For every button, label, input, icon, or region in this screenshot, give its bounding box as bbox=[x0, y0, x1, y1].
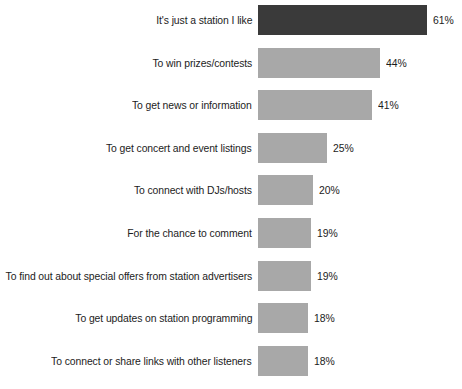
bar-value-label: 61% bbox=[433, 5, 454, 35]
bar-category-label: To get concert and event listings bbox=[106, 133, 252, 163]
bar-category-label: To get news or information bbox=[132, 90, 252, 120]
bar-value-label: 44% bbox=[386, 48, 407, 78]
bar-category-label: It's just a station I like bbox=[156, 5, 252, 35]
bar-value-label: 20% bbox=[319, 175, 340, 205]
bar-category-label: To get updates on station programming bbox=[75, 303, 252, 333]
bar-track: 44% bbox=[258, 48, 462, 78]
bar-value-label: 19% bbox=[317, 261, 338, 291]
bar-track: 19% bbox=[258, 218, 462, 248]
bar-category-label: For the chance to comment bbox=[128, 218, 252, 248]
bar-track: 18% bbox=[258, 303, 462, 333]
bar-category-label: To find out about special offers from st… bbox=[5, 261, 252, 291]
bar bbox=[258, 303, 308, 333]
bar-category-label: To connect or share links with other lis… bbox=[52, 346, 252, 376]
bar-row: To connect with DJs/hosts20% bbox=[0, 175, 462, 205]
bar-track: 25% bbox=[258, 133, 462, 163]
bar-value-label: 41% bbox=[378, 90, 399, 120]
bar-track: 61% bbox=[258, 5, 462, 35]
bar-category-label: To win prizes/contests bbox=[152, 48, 252, 78]
bar-value-label: 18% bbox=[314, 346, 335, 376]
horizontal-bar-chart: It's just a station I like61%To win priz… bbox=[0, 0, 462, 389]
bar-track: 19% bbox=[258, 261, 462, 291]
bar bbox=[258, 346, 308, 376]
bar bbox=[258, 48, 380, 78]
bar-row: To connect or share links with other lis… bbox=[0, 346, 462, 376]
bar bbox=[258, 175, 313, 205]
bar-value-label: 25% bbox=[333, 133, 354, 163]
bar-row: For the chance to comment19% bbox=[0, 218, 462, 248]
bar bbox=[258, 218, 311, 248]
bar-row: It's just a station I like61% bbox=[0, 5, 462, 35]
bar-row: To win prizes/contests44% bbox=[0, 48, 462, 78]
bar-category-label: To connect with DJs/hosts bbox=[134, 175, 252, 205]
bar-track: 18% bbox=[258, 346, 462, 376]
bar bbox=[258, 5, 427, 35]
bar-row: To find out about special offers from st… bbox=[0, 261, 462, 291]
bar bbox=[258, 133, 327, 163]
bar-track: 20% bbox=[258, 175, 462, 205]
bar-track: 41% bbox=[258, 90, 462, 120]
bar-value-label: 18% bbox=[314, 303, 335, 333]
bar-value-label: 19% bbox=[317, 218, 338, 248]
bar-row: To get concert and event listings25% bbox=[0, 133, 462, 163]
bar bbox=[258, 90, 372, 120]
bar-row: To get news or information41% bbox=[0, 90, 462, 120]
bar-row: To get updates on station programming18% bbox=[0, 303, 462, 333]
bar bbox=[258, 261, 311, 291]
